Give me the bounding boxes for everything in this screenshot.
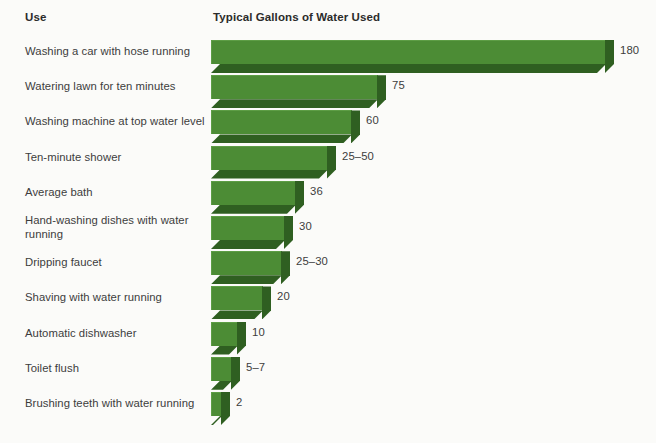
bar bbox=[211, 75, 378, 108]
bar-end-cap bbox=[231, 357, 240, 390]
bar bbox=[211, 392, 222, 425]
bar-bottom-face bbox=[211, 64, 606, 73]
bar-bottom-face bbox=[211, 240, 285, 249]
bar-end-cap bbox=[281, 251, 290, 284]
bar-front-face bbox=[211, 357, 232, 381]
bar-front-face bbox=[211, 146, 328, 170]
chart-row: Watering lawn for ten minutes75 bbox=[0, 73, 656, 108]
bar-bottom-face bbox=[211, 310, 263, 319]
bar-front-face bbox=[211, 181, 296, 205]
bar-value-label: 5–7 bbox=[246, 361, 265, 373]
bar-bottom-face bbox=[211, 170, 328, 179]
bar bbox=[211, 357, 232, 390]
bar-value-label: 60 bbox=[366, 114, 379, 126]
bar bbox=[211, 110, 352, 143]
bar-value-label: 180 bbox=[620, 44, 639, 56]
chart-row: Shaving with water running20 bbox=[0, 284, 656, 319]
bar-end-cap bbox=[295, 181, 304, 214]
bar-front-face bbox=[211, 75, 378, 99]
row-label: Washing a car with hose running bbox=[25, 45, 205, 59]
bar-end-cap bbox=[327, 146, 336, 179]
row-label: Dripping faucet bbox=[25, 256, 205, 270]
bar-value-label: 10 bbox=[252, 326, 265, 338]
bar-end-cap bbox=[377, 75, 386, 108]
chart-row: Washing machine at top water level60 bbox=[0, 108, 656, 143]
bar-left-notch bbox=[210, 416, 220, 425]
bar-value-label: 25–50 bbox=[342, 150, 374, 162]
bar-end-cap bbox=[351, 110, 360, 143]
row-label: Hand-washing dishes with water running bbox=[25, 214, 205, 241]
row-label: Ten-minute shower bbox=[25, 151, 205, 165]
chart-row: Hand-washing dishes with water running30 bbox=[0, 214, 656, 249]
bar-bottom-face bbox=[211, 275, 282, 284]
row-label: Automatic dishwasher bbox=[25, 327, 205, 341]
bar-bottom-face bbox=[211, 134, 352, 143]
bar bbox=[211, 322, 238, 355]
bar-front-face bbox=[211, 322, 238, 346]
chart-page: Use Typical Gallons of Water Used Washin… bbox=[0, 0, 656, 443]
chart-row: Automatic dishwasher10 bbox=[0, 320, 656, 355]
bar-front-face bbox=[211, 216, 285, 240]
row-label: Shaving with water running bbox=[25, 291, 205, 305]
bar bbox=[211, 40, 606, 73]
row-label: Toilet flush bbox=[25, 362, 205, 376]
bar-end-cap bbox=[262, 286, 271, 319]
bar-bottom-face bbox=[211, 99, 378, 108]
bar-value-label: 25–30 bbox=[296, 255, 328, 267]
bar-end-cap bbox=[284, 216, 293, 249]
chart-row: Toilet flush5–7 bbox=[0, 355, 656, 390]
row-label: Average bath bbox=[25, 186, 205, 200]
bar-value-label: 20 bbox=[277, 290, 290, 302]
row-label: Brushing teeth with water running bbox=[25, 397, 205, 411]
bar-front-face bbox=[211, 392, 222, 416]
bar-front-face bbox=[211, 251, 282, 275]
bar bbox=[211, 181, 296, 214]
bar-end-cap bbox=[221, 392, 230, 425]
bar-value-label: 75 bbox=[392, 79, 405, 91]
bar bbox=[211, 216, 285, 249]
chart-row: Dripping faucet25–30 bbox=[0, 249, 656, 284]
bar-end-cap bbox=[605, 40, 614, 73]
chart-row: Average bath36 bbox=[0, 179, 656, 214]
bar-front-face bbox=[211, 286, 263, 310]
chart-row: Washing a car with hose running180 bbox=[0, 38, 656, 73]
column-header-gallons: Typical Gallons of Water Used bbox=[213, 11, 380, 23]
bar bbox=[211, 146, 328, 179]
bar-front-face bbox=[211, 110, 352, 134]
bar bbox=[211, 251, 282, 284]
bar-value-label: 36 bbox=[310, 185, 323, 197]
bar-front-face bbox=[211, 40, 606, 64]
column-header-use: Use bbox=[25, 11, 46, 23]
bar bbox=[211, 286, 263, 319]
bar-end-cap bbox=[237, 322, 246, 355]
bar-bottom-face bbox=[211, 205, 296, 214]
chart-row: Ten-minute shower25–50 bbox=[0, 144, 656, 179]
bar-value-label: 2 bbox=[236, 396, 242, 408]
bar-value-label: 30 bbox=[299, 220, 312, 232]
chart-row: Brushing teeth with water running2 bbox=[0, 390, 656, 425]
row-label: Watering lawn for ten minutes bbox=[25, 80, 205, 94]
row-label: Washing machine at top water level bbox=[25, 115, 205, 129]
